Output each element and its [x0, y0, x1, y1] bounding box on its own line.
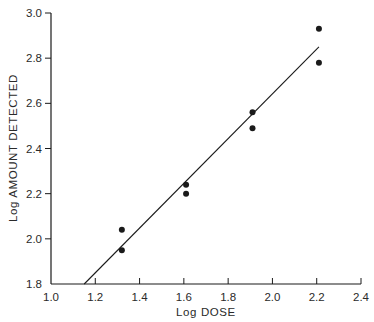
y-tick-label: 2.4	[26, 143, 43, 155]
data-point-marker	[250, 125, 256, 131]
x-ticks: 1.01.21.41.61.82.02.22.4	[43, 278, 370, 303]
axes	[51, 13, 361, 284]
y-tick-label: 2.8	[26, 52, 42, 64]
data-point-marker	[183, 182, 189, 188]
x-tick-label: 1.6	[176, 291, 192, 303]
data-point-marker	[183, 191, 189, 197]
y-tick-label: 2.0	[26, 233, 42, 245]
x-tick-label: 2.4	[353, 291, 370, 303]
x-tick-label: 2.0	[264, 291, 280, 303]
y-tick-label: 2.2	[26, 188, 42, 200]
data-point-marker	[316, 60, 322, 66]
y-tick-label: 3.0	[26, 7, 42, 19]
scatter-chart: 1.01.21.41.61.82.02.22.4 1.82.02.22.42.6…	[0, 0, 374, 322]
y-tick-label: 1.8	[26, 278, 42, 290]
x-tick-label: 1.0	[43, 291, 59, 303]
y-ticks: 1.82.02.22.42.62.83.0	[26, 7, 51, 290]
x-tick-label: 1.2	[87, 291, 103, 303]
data-point-marker	[250, 109, 256, 115]
data-point-marker	[316, 26, 322, 32]
y-axis-label: Log AMOUNT DETECTED	[7, 74, 19, 222]
x-tick-label: 2.2	[309, 291, 325, 303]
data-point-marker	[119, 247, 125, 253]
data-points	[119, 26, 322, 253]
x-axis-label: Log DOSE	[176, 306, 236, 318]
x-tick-label: 1.8	[220, 291, 236, 303]
y-tick-label: 2.6	[26, 97, 42, 109]
data-point-marker	[119, 227, 125, 233]
x-tick-label: 1.4	[132, 291, 149, 303]
